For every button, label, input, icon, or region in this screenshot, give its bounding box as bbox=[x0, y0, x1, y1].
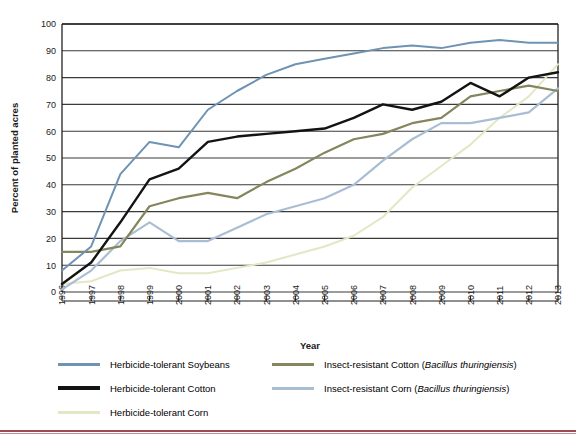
legend-item-right-1: Insect-resistant Corn (Bacillus thuringi… bbox=[272, 376, 517, 400]
x-tick-label: 1998 bbox=[116, 285, 126, 305]
x-tick-label: 2004 bbox=[291, 285, 301, 305]
x-tick-label: 2010 bbox=[466, 285, 476, 305]
footer-rule bbox=[0, 430, 576, 432]
legend-item-label: Insect-resistant Cotton (Bacillus thurin… bbox=[324, 359, 517, 370]
y-tick-label: 30 bbox=[46, 207, 56, 217]
y-tick-label: 20 bbox=[46, 234, 56, 244]
x-tick-label: 2005 bbox=[320, 285, 330, 305]
chart-figure: 0102030405060708090100199619971998199920… bbox=[0, 0, 576, 446]
legend-item-right-0: Insect-resistant Cotton (Bacillus thurin… bbox=[272, 352, 517, 376]
y-axis-title: Percent of planted acres bbox=[9, 103, 20, 213]
legend-swatch-icon bbox=[58, 411, 100, 414]
legend-item-label: Herbicide-tolerant Corn bbox=[110, 407, 208, 418]
y-tick-label: 0 bbox=[51, 287, 56, 297]
x-tick-label: 1999 bbox=[145, 285, 155, 305]
legend-item-label: Herbicide-tolerant Soybeans bbox=[110, 359, 230, 370]
legend-column-left: Herbicide-tolerant SoybeansHerbicide-tol… bbox=[58, 352, 230, 424]
footer-rule-secondary bbox=[0, 433, 576, 434]
x-axis-title: Year bbox=[300, 340, 320, 351]
y-tick-label: 80 bbox=[46, 73, 56, 83]
legend-swatch-icon bbox=[272, 387, 314, 390]
y-tick-label: 90 bbox=[46, 46, 56, 56]
chart-legend: Herbicide-tolerant SoybeansHerbicide-tol… bbox=[0, 352, 576, 424]
y-tick-label: 50 bbox=[46, 153, 56, 163]
x-tick-label: 2006 bbox=[349, 285, 359, 305]
legend-item-left-1: Herbicide-tolerant Cotton bbox=[58, 376, 230, 400]
y-tick-label: 100 bbox=[41, 19, 56, 29]
legend-swatch-icon bbox=[58, 363, 100, 366]
y-tick-label: 70 bbox=[46, 100, 56, 110]
x-tick-label: 2007 bbox=[378, 285, 388, 305]
line-chart: 0102030405060708090100199619971998199920… bbox=[0, 0, 576, 352]
x-tick-label: 2012 bbox=[524, 285, 534, 305]
legend-item-label: Insect-resistant Corn (Bacillus thuringi… bbox=[324, 383, 509, 394]
legend-item-label: Herbicide-tolerant Cotton bbox=[110, 383, 216, 394]
legend-item-left-0: Herbicide-tolerant Soybeans bbox=[58, 352, 230, 376]
legend-item-left-2: Herbicide-tolerant Corn bbox=[58, 400, 230, 424]
y-tick-label: 40 bbox=[46, 180, 56, 190]
x-tick-label: 2003 bbox=[262, 285, 272, 305]
x-tick-label: 2011 bbox=[495, 286, 505, 305]
x-tick-label: 2013 bbox=[553, 285, 563, 305]
x-tick-label: 2000 bbox=[174, 285, 184, 305]
legend-swatch-icon bbox=[272, 363, 314, 366]
legend-swatch-icon bbox=[58, 386, 100, 390]
x-tick-label: 1997 bbox=[87, 285, 97, 305]
y-tick-label: 10 bbox=[46, 261, 56, 271]
y-tick-label: 60 bbox=[46, 127, 56, 137]
x-tick-label: 2001 bbox=[203, 285, 213, 305]
x-tick-label: 2008 bbox=[408, 285, 418, 305]
legend-column-right: Insect-resistant Cotton (Bacillus thurin… bbox=[272, 352, 517, 400]
x-tick-label: 2009 bbox=[437, 285, 447, 305]
x-tick-label: 2002 bbox=[232, 285, 242, 305]
